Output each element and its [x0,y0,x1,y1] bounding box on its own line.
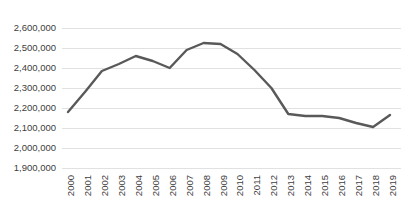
x-axis-tick-label: 2004 [133,175,144,196]
x-axis-tick-label: 2016 [336,175,347,196]
x-axis-tick-labels: 2000200120022003200420052006200720082009… [65,175,398,196]
x-axis-tick-label: 2005 [150,175,161,196]
y-axis-tick-label: 2,300,000 [14,82,56,93]
x-axis-tick-label: 2000 [65,175,76,196]
x-axis-tick-label: 2008 [201,175,212,196]
data-series-line [68,43,390,127]
y-axis-tick-label: 2,000,000 [14,142,56,153]
x-axis-tick-label: 2013 [285,175,296,196]
x-axis-tick-label: 2018 [370,175,381,196]
x-axis-tick-label: 2017 [353,175,364,196]
x-axis-tick-label: 2001 [82,175,93,196]
y-axis-tick-label: 2,200,000 [14,102,56,113]
x-axis-tick-label: 2011 [251,175,262,195]
y-axis-tick-label: 2,500,000 [14,42,56,53]
x-axis-tick-label: 2019 [387,175,398,196]
y-axis-tick-label: 2,400,000 [14,62,56,73]
x-axis-tick-label: 2002 [99,175,110,196]
y-axis-tick-label: 2,600,000 [14,22,56,33]
y-axis-tick-label: 1,900,000 [14,162,56,173]
x-axis-tick-label: 2014 [302,175,313,196]
x-axis-tick-label: 2003 [116,175,127,196]
x-axis-tick-label: 2010 [234,175,245,196]
line-chart: 1,900,0002,000,0002,100,0002,200,0002,30… [0,0,408,207]
x-axis-tick-label: 2015 [319,175,330,196]
x-axis-tick-label: 2007 [184,175,195,196]
chart-canvas: 1,900,0002,000,0002,100,0002,200,0002,30… [0,0,408,207]
y-axis-tick-label: 2,100,000 [14,122,56,133]
x-axis-tick-label: 2006 [167,175,178,196]
gridlines [62,28,401,168]
x-axis-tick-label: 2012 [268,175,279,196]
y-axis-tick-labels: 1,900,0002,000,0002,100,0002,200,0002,30… [14,22,56,173]
x-axis-tick-label: 2009 [218,175,229,196]
